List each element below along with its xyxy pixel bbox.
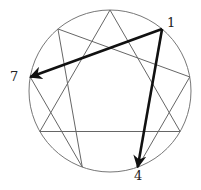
enneagram-diagram: 1 7 4 [0,0,201,190]
point-label-4: 4 [134,168,142,183]
enneagram-circle [29,10,191,172]
point-label-7: 7 [10,69,18,84]
point-label-1: 1 [167,15,175,30]
